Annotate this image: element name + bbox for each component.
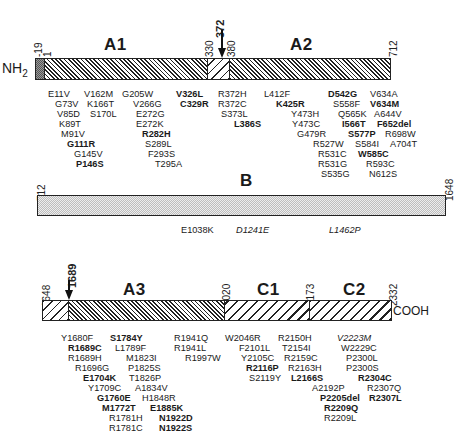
mutation-label: E272K [136, 119, 164, 129]
mutation-label: R1689H [68, 353, 102, 363]
mutation-label: P2300L [346, 353, 378, 363]
mutation-label: W2229C [341, 343, 377, 353]
segment-c2 [310, 301, 391, 320]
mutation-label: L386S [234, 119, 261, 129]
mutation-label: E11V [48, 89, 70, 99]
position-label-1: 1 [42, 51, 53, 57]
mutation-label: R372H [218, 89, 247, 99]
segment-a1-a2-linker [208, 59, 230, 79]
cleavage-arrow-372 [221, 30, 223, 50]
mutation-label: P1825S [128, 363, 161, 373]
mutation-label: N1922D [159, 413, 193, 423]
mutation-label: F652del [377, 119, 411, 129]
mutation-label: D1241E [236, 225, 269, 235]
mutation-label: M1772T [102, 403, 136, 413]
mutation-label: E1038K [181, 225, 214, 235]
mutation-label: R593C [366, 159, 395, 169]
mutation-label: R2150H [278, 333, 312, 343]
mutation-label: Y473C [292, 119, 320, 129]
position-label-380: 380 [226, 40, 237, 57]
mutation-label: S170L [90, 109, 117, 119]
mutation-label: R1696G [75, 363, 109, 373]
mutation-label: R1781H [109, 413, 143, 423]
domain-label-b: B [240, 171, 253, 191]
mutation-label: I566T [342, 119, 366, 129]
mutation-label: R2209L [324, 413, 356, 423]
mutation-label: R1689C [68, 343, 102, 353]
mutation-label: A2192P [312, 383, 345, 393]
segment-a2 [230, 59, 390, 79]
mutation-label: T295A [155, 159, 182, 169]
mutation-label: R2304C [358, 373, 392, 383]
mutation-label: R531G [318, 159, 347, 169]
mutation-label: T1826P [129, 373, 161, 383]
mutation-label: R282H [142, 129, 171, 139]
mutation-label: S535G [321, 169, 350, 179]
mutation-label: R2307L [369, 393, 402, 403]
mutation-label: V266G [133, 99, 162, 109]
mutation-label: R1781C [109, 423, 143, 433]
mutation-label: V634A [370, 89, 398, 99]
mutation-label: P2300S [346, 363, 379, 373]
mutation-label: C329R [180, 99, 209, 109]
mutation-label: M1823I [126, 353, 157, 363]
mutation-label: W585C [358, 149, 389, 159]
mutation-label: A644V [374, 109, 402, 119]
mutation-label: T2154I [282, 343, 311, 353]
segment-a3 [69, 301, 225, 320]
protein-bar-bottom [42, 300, 392, 321]
mutation-label: R2163H [288, 363, 322, 373]
mutation-label: S373L [221, 109, 248, 119]
mutation-label: G73V [55, 99, 79, 109]
mutation-label: R698W [385, 129, 416, 139]
segment-a1 [45, 59, 208, 79]
position-label-712: 712 [388, 40, 399, 57]
mutation-label: L2166S [291, 373, 323, 383]
mutation-label: A1834V [135, 383, 168, 393]
segment-a3-acidic-region [43, 301, 69, 320]
mutation-label: Y1680F [61, 333, 93, 343]
mutation-label: V326L [176, 89, 203, 99]
protein-bar-top [35, 58, 391, 80]
mutation-label: S2119Y [249, 373, 281, 383]
mutation-label: P2205del [320, 393, 360, 403]
mutation-label: V634M [370, 99, 399, 109]
mutation-label: V2223M [337, 333, 371, 343]
segment-signal-peptide [36, 59, 45, 79]
mutation-label: S577P [348, 129, 376, 139]
cleavage-site-label-372: 372 [214, 20, 226, 38]
mutation-label: R1997W [185, 353, 221, 363]
domain-label-c2: C2 [343, 280, 366, 300]
mutation-label: Q565K [338, 109, 367, 119]
mutation-label: F293S [148, 149, 175, 159]
mutation-label: L1462P [329, 225, 361, 235]
mutation-label: R2159C [284, 353, 318, 363]
mutation-label: L1789F [115, 343, 146, 353]
mutation-label: V162M [84, 89, 113, 99]
domain-label-a2: A2 [290, 35, 313, 55]
mutation-label: S289L [145, 139, 172, 149]
mutation-label: S558F [333, 99, 360, 109]
mutation-label: G145V [74, 149, 103, 159]
mutation-label: R1941Q [174, 333, 208, 343]
mutation-label: S1784Y [110, 333, 143, 343]
mutation-label: R2307Q [367, 383, 401, 393]
n-terminus-label: NH2 [2, 60, 28, 79]
mutation-label: G205W [122, 89, 153, 99]
domain-label-c1: C1 [257, 280, 280, 300]
mutation-label: D542G [328, 89, 357, 99]
mutation-label: K166T [87, 99, 114, 109]
mutation-label: E272G [136, 109, 165, 119]
c-terminus-label: COOH [393, 304, 429, 318]
arrowhead-icon [218, 48, 226, 58]
mutation-label: R1941L [174, 343, 206, 353]
mutation-label: R531C [318, 149, 347, 159]
mutation-label: R527W [313, 139, 344, 149]
mutation-label: G1760E [97, 393, 131, 403]
mutation-label: H1848R [142, 393, 176, 403]
mutation-label: S584I [355, 139, 379, 149]
domain-label-a3: A3 [123, 280, 146, 300]
mutation-label: G111R [67, 139, 95, 149]
mutation-label: R2116P [246, 363, 279, 373]
arrowhead-icon [65, 290, 73, 300]
